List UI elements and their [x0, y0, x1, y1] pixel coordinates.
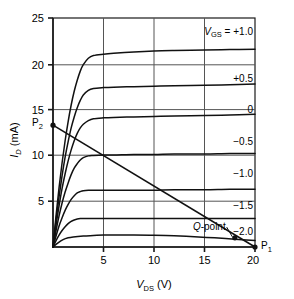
x-axis-title-subscript: DS	[144, 284, 154, 293]
p2-marker	[50, 123, 55, 128]
q-point-label: Q-point	[193, 221, 226, 232]
p2-subscript: 2	[39, 122, 43, 131]
y-axis-title-unit: (mA)	[8, 122, 20, 149]
xtick-label-10: 10	[148, 254, 160, 266]
xtick-label-15: 15	[198, 254, 210, 266]
ytick-label-5: 5	[38, 195, 44, 207]
curve-label-vgs--0.5: −0.5	[233, 136, 253, 147]
curve-label-vgs--1.0: −1.0	[233, 168, 253, 179]
ytick-label-15: 15	[32, 104, 44, 116]
vgs-value-top: +1.0	[233, 26, 253, 37]
curve-label-vgs-+0.5: +0.5	[233, 73, 253, 84]
q-point-label-rest: -point	[201, 221, 226, 232]
xtick-label-5: 5	[100, 254, 106, 266]
jfet-output-characteristics-chart: 25 20 15 10 5 5 10 15 20 +0.50−0.5−1.0−1…	[0, 0, 294, 299]
vgs-equals: =	[222, 26, 233, 37]
p1-marker	[252, 244, 257, 249]
q-point-marker	[232, 235, 237, 240]
p1-subscript: 1	[268, 245, 272, 254]
curve-label-vgs--2.0: −2.0	[233, 226, 253, 237]
chart-figure: 25 20 15 10 5 5 10 15 20 +0.50−0.5−1.0−1…	[0, 0, 294, 299]
curve-label-vgs-0: 0	[247, 104, 253, 115]
curve-label-vgs--1.5: −1.5	[233, 200, 253, 211]
x-axis-title-unit: (V)	[154, 278, 172, 290]
ytick-label-10: 10	[32, 149, 44, 161]
vgs-subscript: GS	[211, 30, 222, 39]
ytick-label-25: 25	[32, 12, 44, 24]
ytick-label-20: 20	[32, 59, 44, 71]
xtick-label-20: 20	[247, 254, 259, 266]
